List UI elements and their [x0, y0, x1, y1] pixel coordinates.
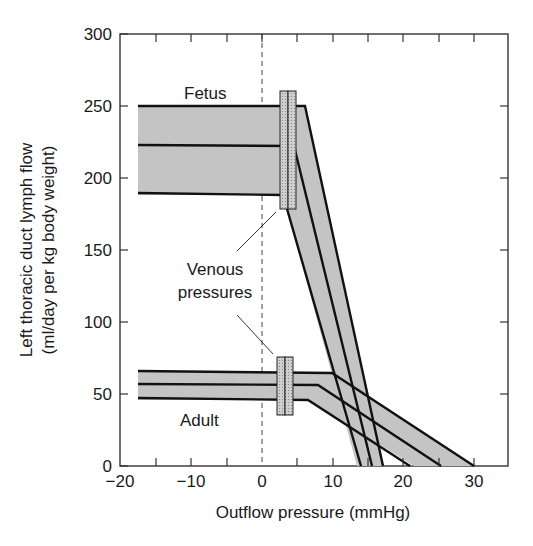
x-tick-label: 20 [394, 472, 413, 491]
fetus-venous-pressure-box [280, 91, 296, 209]
x-tick-label: 30 [465, 472, 484, 491]
venous-leader-fetus [237, 212, 276, 251]
adult-label: Adult [180, 411, 219, 430]
venous-leader-adult [237, 315, 273, 354]
y-tick-label: 200 [84, 169, 112, 188]
y-tick-label: 100 [84, 313, 112, 332]
x-axis-title: Outflow pressure (mmHg) [216, 503, 411, 522]
y-tick-label: 250 [84, 97, 112, 116]
x-tick-label: −20 [106, 472, 135, 491]
y-axis-title-line1: Left thoracic duct lymph flow [17, 142, 36, 357]
venous-label-line2: pressures [178, 283, 253, 302]
lymph-flow-chart: 0 50 100 150 200 250 300 −20 −10 0 10 20… [0, 0, 533, 546]
venous-label-line1: Venous [187, 260, 244, 279]
y-tick-label: 150 [84, 241, 112, 260]
x-tick-label: 0 [257, 472, 266, 491]
fetus-label: Fetus [184, 84, 227, 103]
y-tick-label: 50 [93, 385, 112, 404]
adult-venous-pressure-box [277, 357, 293, 415]
x-tick-label: −10 [177, 472, 206, 491]
x-tick-label: 10 [324, 472, 343, 491]
y-tick-label: 300 [84, 25, 112, 44]
y-axis-title-line2: (ml/day per kg body weight) [39, 146, 58, 355]
